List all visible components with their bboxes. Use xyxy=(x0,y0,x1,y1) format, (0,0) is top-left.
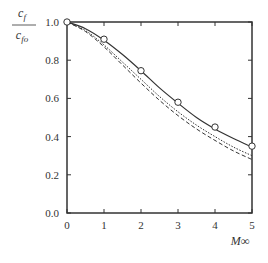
data-point-marker xyxy=(175,99,181,105)
data-point-marker xyxy=(212,124,218,130)
x-tick-label: 3 xyxy=(175,219,181,231)
y-axis-label-denominator: cfo xyxy=(16,28,29,44)
x-axis-label: M∞ xyxy=(230,234,250,248)
plot-frame xyxy=(67,22,252,213)
x-tick-label: 2 xyxy=(138,219,144,231)
y-tick-label: 0.0 xyxy=(45,207,59,219)
dashed-curve xyxy=(67,22,252,160)
y-axis-label-numerator: cf xyxy=(18,6,27,22)
dotted-curve xyxy=(67,22,252,156)
x-tick-label: 5 xyxy=(249,219,255,231)
chart: 0123450.00.20.40.60.81.0M∞cfcfo xyxy=(0,0,268,263)
y-tick-label: 0.8 xyxy=(45,54,59,66)
y-tick-label: 1.0 xyxy=(45,16,59,28)
x-tick-label: 0 xyxy=(64,219,70,231)
y-tick-label: 0.6 xyxy=(45,92,59,104)
y-tick-label: 0.2 xyxy=(45,169,59,181)
data-point-marker xyxy=(64,19,70,25)
data-point-marker xyxy=(249,143,255,149)
data-point-marker xyxy=(138,68,144,74)
x-tick-label: 1 xyxy=(101,219,107,231)
data-point-marker xyxy=(101,36,107,42)
y-tick-label: 0.4 xyxy=(45,131,59,143)
solid-curve xyxy=(67,22,252,147)
x-tick-label: 4 xyxy=(212,219,218,231)
